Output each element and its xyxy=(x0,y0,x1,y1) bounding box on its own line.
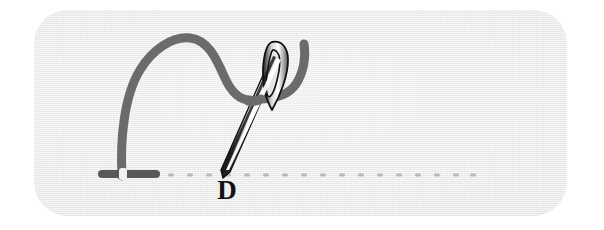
step-label: D xyxy=(212,177,242,204)
fabric-swatch xyxy=(34,10,567,216)
fabric-weave-texture xyxy=(34,10,567,216)
fabric-weave-texture-vertical xyxy=(34,10,567,216)
fabric-shading-overlay xyxy=(34,10,567,216)
diagram-canvas: D xyxy=(0,0,604,230)
